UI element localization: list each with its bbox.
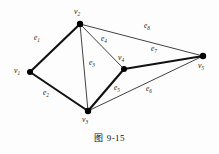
vertex-label-sub-v5: 5 — [201, 65, 204, 71]
caption-number: 9-15 — [107, 133, 125, 143]
edge-label-e7: e7 — [151, 45, 157, 53]
graph-vertex-v1 — [27, 69, 33, 75]
edge-label-e4: e4 — [101, 35, 107, 43]
graph-edge-e7 — [124, 56, 203, 69]
edge-label-e3: e3 — [89, 59, 95, 67]
edge-label-e6: e6 — [146, 85, 152, 93]
vertex-label-v2: v2 — [74, 8, 80, 16]
graph-vertex-v5 — [200, 53, 206, 59]
vertex-label-sub-v3: 3 — [85, 119, 88, 125]
edge-layer — [30, 24, 203, 111]
edge-label-sub-e6: 6 — [149, 88, 152, 94]
vertex-label-v3: v3 — [82, 116, 88, 124]
graph-vertex-v4 — [121, 66, 127, 72]
edge-label-e5: e5 — [114, 84, 120, 92]
edge-label-e2: e2 — [43, 89, 49, 97]
edge-label-sub-e5: 5 — [117, 87, 120, 93]
graph-edge-e3 — [80, 24, 88, 111]
graph-edge-e8 — [80, 24, 203, 56]
edge-label-e1: e1 — [34, 34, 40, 42]
edge-label-sub-e8: 8 — [147, 25, 150, 31]
edge-label-sub-e3: 3 — [92, 62, 95, 68]
vertex-label-sub-v2: 2 — [77, 11, 80, 17]
edge-label-sub-e2: 2 — [46, 92, 49, 98]
vertex-label-v4: v4 — [118, 54, 124, 62]
vertex-label-v1: v1 — [14, 67, 20, 75]
graph-vertex-v2 — [77, 21, 83, 27]
vertex-label-sub-v4: 4 — [121, 57, 124, 63]
figure-container: e1e2e3e4e5e6e7e8v1v2v3v4v5 图 9-15 — [0, 0, 219, 154]
vertex-label-v5: v5 — [198, 62, 204, 70]
edge-label-sub-e7: 7 — [154, 48, 157, 54]
caption-prefix: 图 — [94, 133, 103, 143]
vertex-label-sub-v1: 1 — [17, 70, 20, 76]
graph-edge-e2 — [30, 72, 88, 111]
figure-caption: 图 9-15 — [0, 131, 219, 144]
graph-edge-e4 — [80, 24, 124, 69]
edge-label-e8: e8 — [144, 22, 150, 30]
graph-edge-e1 — [30, 24, 80, 72]
graph-vertex-v3 — [85, 108, 91, 114]
edge-label-sub-e4: 4 — [104, 38, 107, 44]
edge-label-sub-e1: 1 — [37, 37, 40, 43]
